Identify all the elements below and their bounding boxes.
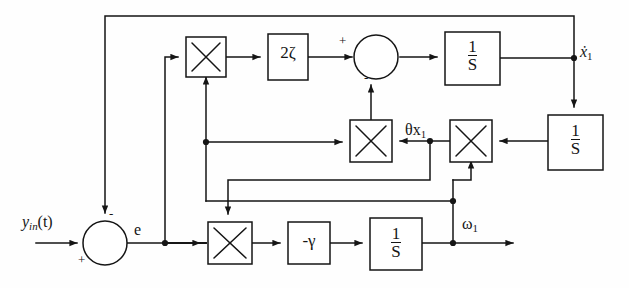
damping-summer-plus-sign: + [339, 33, 346, 49]
damping-summer-minus-sign: - [364, 70, 368, 86]
junction-dot-omega1 [450, 240, 456, 246]
integrator-omega-numerator: 1 [391, 225, 400, 242]
signal-label-error: e [134, 222, 141, 238]
signal-label-omega1: ω1 [462, 216, 478, 234]
integrator-xdot-label: 1 S [445, 38, 500, 74]
omega1-base: ω [462, 215, 473, 232]
signal-label-theta-x1: θx1 [405, 122, 426, 140]
gain-neg-gamma-label: -γ [291, 232, 327, 249]
junction-dot-theta-x1 [427, 138, 433, 144]
input-summer-minus-sign: - [109, 206, 113, 222]
junction-dot-omega1-branch [450, 198, 456, 204]
integrator-x-label: 1 S [548, 122, 603, 158]
gain-two-zeta-label: 2ζ [272, 44, 304, 61]
integrator-x-denominator: S [571, 139, 580, 157]
block-diagram-canvas: 2ζ -γ 1 S 1 S 1 S yin(t) e ẋ1 θx1 ω1 - +… [0, 0, 629, 288]
wire-e-up-to-damping-multiplier [165, 57, 178, 243]
theta-x1-sub: 1 [421, 128, 426, 140]
signal-label-input: yin(t) [22, 214, 53, 232]
signal-label-xdot1: ẋ1 [580, 44, 593, 62]
junction-dot-xdot1 [571, 55, 577, 61]
input-signal-arg: (t) [38, 213, 53, 230]
input-summer-plus-sign: + [78, 252, 85, 268]
integrator-x-numerator: 1 [571, 122, 580, 139]
junction-dot-e [162, 240, 168, 246]
integrator-omega-label: 1 S [370, 225, 422, 261]
input-signal-sub: in [29, 220, 37, 232]
integrator-xdot-denominator: S [468, 55, 477, 73]
integrator-omega-denominator: S [391, 242, 400, 260]
xdot1-sub: 1 [587, 50, 592, 62]
omega1-sub: 1 [473, 222, 478, 234]
wire-thetax-to-adaptation-multiplier [228, 141, 430, 214]
wire-omega1-to-theta-multiplier [453, 161, 471, 180]
junction-dot-e-branch [203, 139, 209, 145]
damping-summer-circle [354, 35, 398, 79]
input-summer-circle [83, 221, 127, 265]
integrator-xdot-numerator: 1 [468, 38, 477, 55]
theta-x1-base: θx [405, 121, 421, 138]
